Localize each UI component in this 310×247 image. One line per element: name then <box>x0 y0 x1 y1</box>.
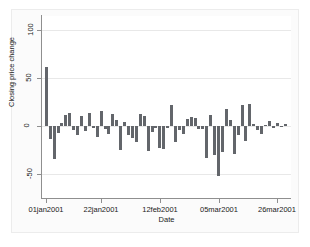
bar <box>248 104 251 126</box>
x-axis-tick <box>277 199 278 203</box>
bar <box>244 126 247 141</box>
bar <box>119 126 122 150</box>
bar <box>80 116 83 127</box>
x-axis-tick-label: 26mar2001 <box>258 205 296 214</box>
bar <box>68 113 71 126</box>
x-axis-title: Date <box>42 215 291 224</box>
bar <box>260 126 263 134</box>
bar <box>241 105 244 126</box>
bar <box>104 126 107 129</box>
bar <box>131 126 134 137</box>
bar <box>100 111 103 126</box>
bar <box>84 126 87 131</box>
bar <box>284 124 287 126</box>
x-axis-tick <box>46 199 47 203</box>
bar <box>272 126 275 128</box>
y-axis-tick-label: 0 <box>22 123 31 127</box>
gridline <box>42 30 291 31</box>
bar <box>194 118 197 127</box>
bar <box>92 126 95 128</box>
y-axis-title: Closing price change <box>7 37 16 107</box>
bar <box>190 117 193 127</box>
plot-region <box>42 16 291 198</box>
y-axis-tick-label: 100 <box>26 23 35 36</box>
bar <box>217 126 220 176</box>
x-axis-tick <box>160 199 161 203</box>
gridline <box>42 78 291 79</box>
bar <box>225 109 228 126</box>
bar <box>111 114 114 126</box>
bar <box>57 126 60 133</box>
x-axis-tick <box>219 199 220 203</box>
y-axis-tick-label: 50 <box>24 73 33 81</box>
bar <box>139 114 142 126</box>
bar <box>127 126 130 135</box>
bar <box>88 113 91 126</box>
x-axis-tick-label: 01jan2001 <box>28 205 63 214</box>
bar <box>45 67 48 126</box>
bar <box>151 126 154 132</box>
bar <box>76 126 79 135</box>
gridline <box>42 174 291 175</box>
y-axis-line <box>41 15 42 199</box>
bar <box>154 126 157 128</box>
y-axis-tick-label: -50 <box>25 168 34 179</box>
bar <box>115 120 118 126</box>
x-axis-tick-label: 22jan2001 <box>83 205 118 214</box>
bar <box>166 126 169 128</box>
bar <box>237 126 240 135</box>
bar <box>197 126 200 129</box>
bar <box>213 126 216 155</box>
bar <box>276 123 279 126</box>
bar <box>182 126 185 134</box>
x-axis-tick <box>101 199 102 203</box>
bar <box>256 126 259 130</box>
bar <box>135 126 138 142</box>
bar <box>143 116 146 127</box>
bar <box>72 126 75 130</box>
bar <box>53 126 56 159</box>
bar <box>268 121 271 126</box>
bar <box>209 115 212 126</box>
bar <box>221 126 224 152</box>
bar <box>264 125 267 126</box>
bar <box>280 126 283 127</box>
chart-figure: -50050100 01jan200122jan200112feb200105m… <box>0 0 310 247</box>
bar <box>233 126 236 154</box>
bar <box>96 126 99 137</box>
bar <box>178 126 181 130</box>
bar <box>170 105 173 126</box>
bar <box>252 124 255 126</box>
x-axis-tick-label: 05mar2001 <box>200 205 238 214</box>
bar <box>123 122 126 126</box>
bar <box>229 120 232 126</box>
bar <box>64 115 67 126</box>
bar <box>49 126 52 138</box>
bar <box>158 126 161 148</box>
bar <box>162 126 165 149</box>
bar <box>107 126 110 134</box>
x-axis-tick-label: 12feb2001 <box>142 205 177 214</box>
x-axis-line <box>41 198 291 199</box>
bar <box>201 126 204 129</box>
bar <box>186 119 189 126</box>
bar <box>60 123 63 126</box>
bar <box>174 126 177 142</box>
bar <box>147 126 150 151</box>
bar <box>205 126 208 158</box>
